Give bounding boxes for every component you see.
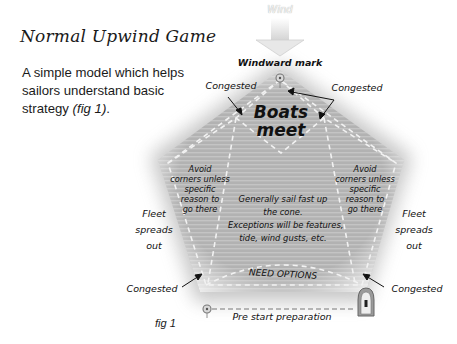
pre-start-label: Pre start preparation	[232, 311, 332, 322]
congested-top-right: Congested	[322, 82, 392, 93]
congested-bottom-left: Congested	[122, 283, 182, 294]
fleet-spreads-left: Fleet spreads out	[134, 206, 174, 254]
avoid-corners-left: Avoid corners unless specific reason to …	[168, 164, 232, 214]
boats-meet-label: Boats meet	[250, 103, 312, 139]
center-guidance: Generally sail fast up the cone. Excepti…	[228, 193, 338, 245]
avoid-corners-right: Avoid corners unless specific reason to …	[333, 164, 397, 214]
windward-mark-label: Windward mark	[230, 57, 330, 68]
committee-boat-icon	[358, 288, 374, 316]
wind-arrow-icon	[256, 18, 304, 56]
wind-label: Wind	[262, 4, 298, 15]
fleet-spreads-right: Fleet spreads out	[394, 206, 434, 254]
figure-caption: fig 1	[155, 317, 176, 329]
congested-top-left: Congested	[196, 80, 266, 91]
congested-bottom-right: Congested	[385, 283, 449, 294]
pin-end-mark-icon	[203, 305, 211, 318]
